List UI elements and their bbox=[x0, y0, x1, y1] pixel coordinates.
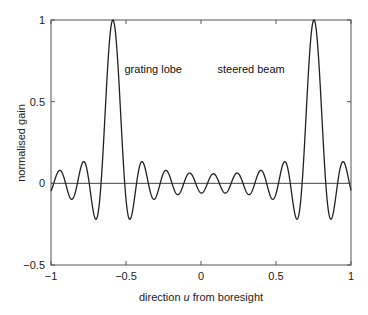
y-tick-label: −0.5 bbox=[23, 259, 45, 271]
y-tick-label: 0.5 bbox=[30, 96, 45, 108]
y-axis-ticks: −0.500.51 bbox=[23, 14, 351, 271]
annotation-grating-lobe: grating lobe bbox=[125, 63, 183, 75]
chart: −1−0.500.51 −0.500.51 grating lobe steer… bbox=[0, 0, 368, 315]
y-axis-label: normalised gain bbox=[15, 104, 27, 182]
x-tick-label: 0 bbox=[198, 270, 204, 282]
x-axis-label: direction u from boresight bbox=[139, 291, 263, 303]
annotation-steered-beam: steered beam bbox=[218, 63, 285, 75]
x-tick-label: −0.5 bbox=[115, 270, 137, 282]
x-tick-label: 0.5 bbox=[268, 270, 283, 282]
y-tick-label: 1 bbox=[39, 14, 45, 26]
x-tick-label: −1 bbox=[45, 270, 58, 282]
plot-frame bbox=[51, 20, 351, 265]
gain-curve bbox=[51, 20, 351, 219]
x-axis-ticks: −1−0.500.51 bbox=[45, 20, 354, 282]
x-tick-label: 1 bbox=[348, 270, 354, 282]
axes-box bbox=[51, 20, 351, 265]
y-tick-label: 0 bbox=[39, 177, 45, 189]
